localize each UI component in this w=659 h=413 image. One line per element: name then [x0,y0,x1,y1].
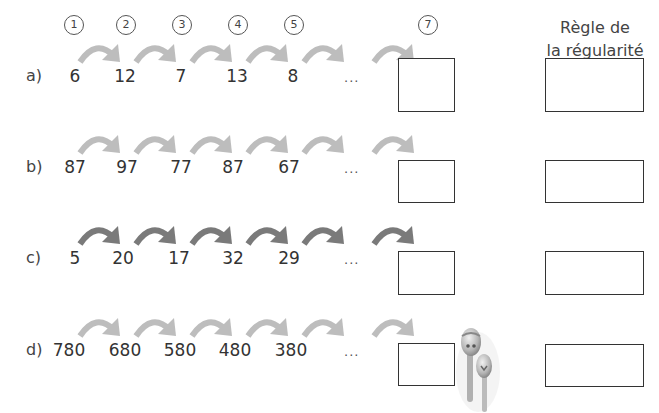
row-label: b) [26,157,42,176]
rule-answer-box[interactable] [545,58,644,112]
arrow-icon [298,222,348,246]
sequence-value: 67 [264,157,314,177]
sequence-value: 32 [208,248,258,268]
ellipsis: ... [344,252,359,267]
arrow-icon [74,314,124,338]
arrow-icon [130,131,180,155]
rule-answer-box[interactable] [545,344,644,387]
step-number-3: 3 [172,15,192,35]
sequence-value: 17 [154,248,204,268]
arrow-icon [368,222,418,246]
arrow-icon [186,131,236,155]
arrow-icon [130,40,180,64]
arrow-icon [242,222,292,246]
ellipsis: ... [344,344,359,359]
step-number-2: 2 [116,15,136,35]
step-number-1: 1 [64,15,84,35]
arrow-icon [298,40,348,64]
row-label: a) [26,66,42,85]
answer-box-7th-term[interactable] [398,58,455,112]
sequence-value: 87 [208,157,258,177]
arrow-icon [298,131,348,155]
arrow-icon [74,222,124,246]
arrow-icon [74,131,124,155]
arrow-icon [298,314,348,338]
sequence-value: 20 [98,248,148,268]
arrow-icon [242,314,292,338]
arrow-icon [186,222,236,246]
arrow-icon [368,314,418,338]
sequence-value: 13 [212,66,262,86]
answer-box-7th-term[interactable] [398,160,455,203]
sequence-value: 8 [268,66,318,86]
sequence-value: 5 [50,248,100,268]
step-number-5: 5 [284,15,304,35]
sequence-value: 780 [44,340,94,360]
sequence-value: 77 [156,157,206,177]
sequence-value: 12 [100,66,150,86]
sequence-value: 7 [156,66,206,86]
maracas-icon [455,322,500,413]
answer-box-7th-term[interactable] [398,343,455,386]
arrow-icon [186,40,236,64]
arrow-icon [242,40,292,64]
step-number-7: 7 [418,15,438,35]
sequence-value: 680 [100,340,150,360]
row-label: d) [26,340,42,359]
arrow-icon [242,131,292,155]
answer-box-7th-term[interactable] [398,251,455,295]
rule-title-line-1: Règle de [520,16,659,39]
step-number-4: 4 [228,15,248,35]
sequence-value: 87 [50,157,100,177]
rule-answer-box[interactable] [545,251,644,295]
rule-column-title: Règle de la régularité [520,16,659,62]
row-label: c) [26,248,41,267]
arrow-icon [74,40,124,64]
ellipsis: ... [344,70,359,85]
rule-answer-box[interactable] [545,160,644,203]
arrow-icon [130,314,180,338]
arrow-icon [130,222,180,246]
sequence-value: 580 [155,340,205,360]
sequence-value: 480 [210,340,260,360]
arrow-icon [186,314,236,338]
sequence-value: 97 [102,157,152,177]
sequence-value: 380 [266,340,316,360]
arrow-icon [368,131,418,155]
ellipsis: ... [344,161,359,176]
sequence-value: 29 [264,248,314,268]
sequence-value: 6 [50,66,100,86]
